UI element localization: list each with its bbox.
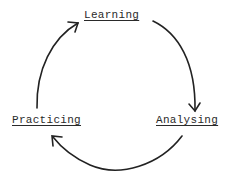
arc-learning-analysing (153, 21, 195, 111)
arc-practicing-learning (37, 23, 78, 108)
arrow-analysing-to-practicing (52, 136, 182, 170)
arrow-learning-to-analysing (153, 21, 200, 111)
arrows-layer (0, 0, 237, 188)
arc-analysing-practicing (53, 136, 182, 170)
arrow-practicing-to-learning (37, 22, 78, 108)
